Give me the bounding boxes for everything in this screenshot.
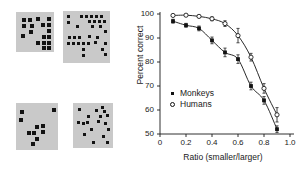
- stimulus-dot: [82, 48, 85, 51]
- stimulus-dot: [94, 41, 97, 44]
- stimulus-dot: [104, 122, 107, 125]
- stimulus-dot: [42, 41, 46, 45]
- stimulus-dot: [90, 128, 93, 131]
- stimulus-dot: [88, 20, 91, 23]
- stimulus-dot: [103, 110, 106, 113]
- stimulus-dot: [35, 137, 39, 141]
- data-point-marker: [275, 127, 279, 131]
- stimulus-dot: [106, 141, 109, 144]
- stimulus-dot: [103, 20, 106, 23]
- stimulus-dot: [21, 34, 25, 38]
- stimulus-dot: [76, 25, 79, 28]
- stimulus-dot: [95, 109, 98, 112]
- filled-square-icon: [168, 88, 177, 99]
- performance-chart: Percent correct Ratio (smaller/larger) M…: [124, 0, 307, 171]
- x-tick-label: 1.0: [279, 138, 301, 147]
- stimulus-dot: [85, 15, 88, 18]
- stimulus-dot: [67, 15, 70, 18]
- stimulus-dot: [80, 15, 83, 18]
- stimulus-dot: [72, 42, 75, 45]
- stimulus-dot: [42, 46, 46, 50]
- stimulus-dot: [67, 21, 70, 24]
- data-point-marker: [210, 39, 214, 43]
- dot-array-stimuli: [0, 0, 128, 171]
- y-tick-label: 50: [132, 129, 154, 138]
- panel-top-left: [16, 12, 54, 52]
- panel-bottom-right: [73, 103, 113, 148]
- figure-panel: Percent correct Ratio (smaller/larger) M…: [0, 0, 307, 171]
- stimulus-dot: [99, 115, 102, 118]
- stimulus-dot: [35, 125, 39, 129]
- stimulus-dot: [41, 130, 45, 134]
- stimulus-dot: [88, 35, 91, 38]
- stimulus-dot: [78, 108, 81, 111]
- y-tick-label: 70: [132, 81, 154, 90]
- y-tick-label: 90: [132, 33, 154, 42]
- x-axis-label: Ratio (smaller/larger): [138, 152, 307, 162]
- stimulus-dot: [68, 36, 71, 39]
- stimulus-dot: [82, 54, 85, 57]
- data-point-marker: [171, 19, 175, 23]
- legend-item-humans: Humans: [168, 99, 214, 110]
- data-point-marker: [197, 27, 201, 31]
- stimulus-dot: [41, 124, 45, 128]
- stimulus-dot: [67, 42, 70, 45]
- series-monkeys: [171, 19, 279, 132]
- stimulus-dot: [36, 17, 40, 21]
- stimulus-dot: [82, 122, 85, 125]
- panel-top-right: [63, 11, 110, 63]
- stimulus-dot: [98, 20, 101, 23]
- stimulus-dot: [77, 42, 80, 45]
- stimulus-dot: [31, 142, 35, 146]
- axis-spines: [160, 12, 294, 134]
- chart-legend: Monkeys Humans: [168, 88, 214, 110]
- stimulus-dot: [96, 36, 99, 39]
- legend-label-monkeys: Monkeys: [180, 88, 214, 99]
- stimulus-dot: [83, 133, 86, 136]
- data-point-marker: [249, 84, 253, 88]
- stimulus-dot: [91, 25, 94, 28]
- legend-item-monkeys: Monkeys: [168, 88, 214, 99]
- stimulus-dot: [86, 121, 89, 124]
- x-tick-label: 0.6: [227, 138, 249, 147]
- data-point-marker: [249, 55, 253, 59]
- stimulus-dot: [78, 36, 81, 39]
- data-point-marker: [184, 23, 188, 27]
- y-tick-label: 100: [132, 9, 154, 18]
- data-point-marker: [262, 86, 266, 90]
- stimulus-dot: [47, 41, 51, 45]
- stimulus-dot: [28, 18, 32, 22]
- data-point-marker: [236, 34, 240, 38]
- stimulus-dot: [92, 141, 95, 144]
- stimulus-dot: [102, 135, 105, 138]
- stimulus-dot: [107, 128, 110, 131]
- data-point-marker: [210, 17, 214, 21]
- stimulus-dot: [93, 20, 96, 23]
- stimulus-dot: [82, 42, 85, 45]
- stimulus-dot: [22, 24, 26, 28]
- stimulus-dot: [42, 35, 46, 39]
- stimulus-dot: [87, 42, 90, 45]
- stimulus-dot: [30, 24, 34, 28]
- y-tick-label: 80: [132, 57, 154, 66]
- stimulus-dot: [19, 118, 23, 122]
- data-point-marker: [171, 13, 175, 17]
- data-point-marker: [236, 57, 240, 61]
- stimulus-dot: [95, 15, 98, 18]
- stimulus-dot: [32, 131, 36, 135]
- fit-curve: [173, 21, 277, 129]
- stimulus-dot: [100, 15, 103, 18]
- stimulus-dot: [52, 108, 56, 112]
- stimulus-dot: [104, 42, 107, 45]
- panel-bottom-left: [16, 103, 58, 150]
- x-tick-label: 0.8: [253, 138, 275, 147]
- stimulus-dot: [41, 23, 45, 27]
- open-circle-icon: [168, 99, 177, 110]
- data-point-marker: [197, 14, 201, 18]
- stimulus-dot: [47, 23, 51, 27]
- stimulus-dot: [97, 120, 100, 123]
- stimulus-dot: [106, 114, 109, 117]
- stimulus-dot: [47, 46, 51, 50]
- data-point-marker: [223, 22, 227, 26]
- stimulus-dot: [27, 131, 31, 135]
